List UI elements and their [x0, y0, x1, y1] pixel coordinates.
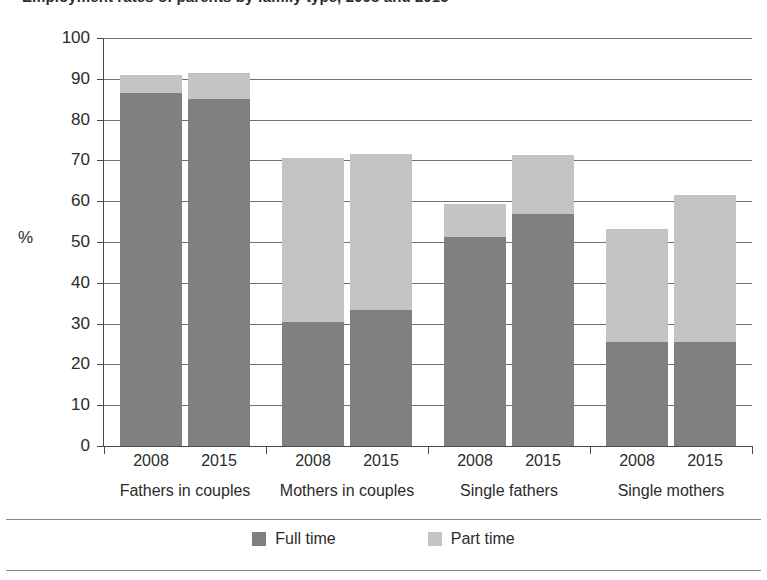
- bar-single-fathers-2008: [444, 204, 506, 446]
- x-tick-label-year: 2008: [602, 452, 672, 470]
- x-tick-label-year: 2015: [670, 452, 740, 470]
- y-tick-mark: [97, 120, 104, 121]
- x-axis-group-label: Mothers in couples: [266, 482, 428, 500]
- plot-area: [104, 38, 752, 446]
- y-tick-mark: [97, 405, 104, 406]
- bar-segment-full-time: [606, 342, 668, 446]
- y-tick-label: 0: [34, 436, 90, 456]
- y-tick-mark: [97, 283, 104, 284]
- y-tick-mark: [97, 446, 104, 447]
- x-tick-label-year: 2015: [508, 452, 578, 470]
- x-axis-tick: [752, 446, 753, 454]
- bar-fathers-in-couples-2015: [188, 73, 250, 446]
- y-tick-label: 60: [34, 191, 90, 211]
- x-tick-label-year: 2008: [440, 452, 510, 470]
- x-tick-label-year: 2008: [116, 452, 186, 470]
- x-axis-tick: [590, 446, 591, 454]
- bottom-rule: [6, 570, 761, 571]
- bar-single-fathers-2015: [512, 155, 574, 446]
- y-tick-label: 100: [34, 28, 90, 48]
- bar-segment-full-time: [512, 214, 574, 446]
- y-tick-mark: [97, 79, 104, 80]
- x-axis-group-label: Fathers in couples: [104, 482, 266, 500]
- y-tick-mark: [97, 38, 104, 39]
- bar-single-mothers-2008: [606, 229, 668, 446]
- bar-segment-full-time: [188, 99, 250, 446]
- x-axis-tick: [104, 446, 105, 454]
- y-axis-title: %: [18, 228, 33, 248]
- legend-divider: [6, 519, 761, 520]
- chart-legend: Full timePart time: [0, 530, 767, 548]
- x-axis-group-label: Single fathers: [428, 482, 590, 500]
- y-tick-mark: [97, 324, 104, 325]
- bar-fathers-in-couples-2008: [120, 75, 182, 446]
- bar-segment-full-time: [120, 93, 182, 446]
- x-tick-label-year: 2015: [346, 452, 416, 470]
- y-tick-mark: [97, 242, 104, 243]
- y-tick-mark: [97, 201, 104, 202]
- legend-swatch-part-time: [428, 532, 442, 546]
- bar-segment-full-time: [282, 322, 344, 446]
- x-axis-tick: [428, 446, 429, 454]
- legend-label-full-time: Full time: [275, 530, 335, 548]
- legend-item-full-time: Full time: [252, 530, 335, 548]
- y-tick-mark: [97, 160, 104, 161]
- y-tick-label: 20: [34, 354, 90, 374]
- x-tick-label-year: 2008: [278, 452, 348, 470]
- bar-single-mothers-2015: [674, 195, 736, 446]
- y-tick-label: 50: [34, 232, 90, 252]
- stacked-bar-chart: % 1009080706050403020100 20082015Fathers…: [0, 0, 767, 580]
- y-tick-label: 80: [34, 110, 90, 130]
- x-axis-group-label: Single mothers: [590, 482, 752, 500]
- y-tick-label: 30: [34, 314, 90, 334]
- legend-label-part-time: Part time: [451, 530, 515, 548]
- y-tick-label: 70: [34, 150, 90, 170]
- bar-segment-full-time: [444, 237, 506, 446]
- x-axis-tick: [266, 446, 267, 454]
- bar-segment-full-time: [674, 342, 736, 446]
- bar-mothers-in-couples-2008: [282, 158, 344, 446]
- legend-swatch-full-time: [252, 532, 266, 546]
- y-tick-label: 10: [34, 395, 90, 415]
- bar-mothers-in-couples-2015: [350, 154, 412, 446]
- legend-item-part-time: Part time: [428, 530, 515, 548]
- y-tick-label: 90: [34, 69, 90, 89]
- x-tick-label-year: 2015: [184, 452, 254, 470]
- y-tick-mark: [97, 364, 104, 365]
- y-tick-label: 40: [34, 273, 90, 293]
- bar-segment-full-time: [350, 310, 412, 446]
